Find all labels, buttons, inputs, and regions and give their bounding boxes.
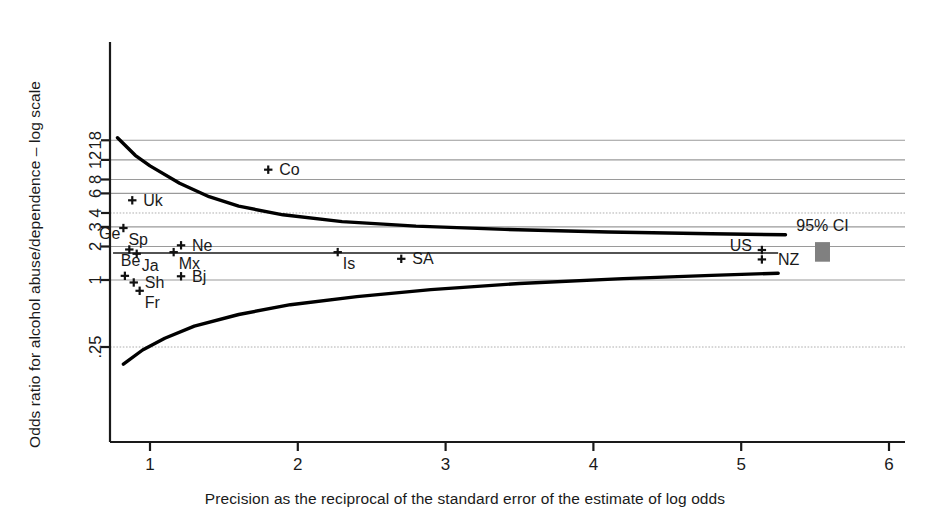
data-point-label: SA bbox=[412, 250, 434, 267]
ci-bar bbox=[815, 242, 830, 262]
y-tick-label: 2 bbox=[86, 242, 104, 251]
data-point-label: Fr bbox=[145, 294, 161, 311]
x-tick-label: 3 bbox=[441, 455, 450, 474]
data-point-label: US bbox=[730, 237, 752, 254]
data-point-label: Uk bbox=[143, 192, 164, 209]
data-point-label: Is bbox=[343, 255, 355, 272]
data-point-label: Bj bbox=[192, 268, 206, 285]
funnel-plot-canvas: .251234681218 123456 CoUkSpGeNeJaMxIsSAU… bbox=[0, 0, 930, 523]
data-point-label: Ne bbox=[192, 237, 213, 254]
data-point-label: Be bbox=[121, 252, 141, 269]
y-tick-label: 1 bbox=[86, 275, 104, 284]
data-point-label: Sh bbox=[145, 274, 165, 291]
x-tick-label: 1 bbox=[145, 455, 154, 474]
x-tick-label: 2 bbox=[293, 455, 302, 474]
x-tick-label: 5 bbox=[736, 455, 745, 474]
y-tick-label: 6 bbox=[86, 189, 104, 198]
data-point-label: Ja bbox=[142, 257, 159, 274]
y-tick-label: 8 bbox=[86, 175, 104, 184]
funnel-plot-figure: .251234681218 123456 CoUkSpGeNeJaMxIsSAU… bbox=[0, 0, 930, 523]
data-point-label: Sp bbox=[128, 231, 148, 248]
data-point-label: Ge bbox=[99, 225, 120, 242]
data-point-label: NZ bbox=[778, 251, 800, 268]
data-point-label: Co bbox=[279, 161, 300, 178]
y-tick-label: 12 bbox=[86, 151, 104, 169]
y-tick-label: 18 bbox=[86, 131, 104, 149]
y-tick-label: 4 bbox=[86, 208, 104, 217]
x-axis-title: Precision as the reciprocal of the stand… bbox=[0, 490, 930, 508]
x-tick-label: 6 bbox=[884, 455, 893, 474]
y-tick-label: .25 bbox=[86, 336, 104, 359]
y-axis-title: Odds ratio for alcohol abuse/dependence … bbox=[26, 81, 44, 448]
ci-label: 95% CI bbox=[796, 217, 848, 234]
x-tick-label: 4 bbox=[589, 455, 598, 474]
